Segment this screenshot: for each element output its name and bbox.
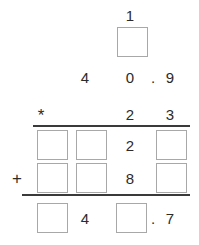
- add-operator-icon: +: [8, 170, 26, 187]
- multiply-operator-icon: *: [32, 107, 50, 124]
- multiplicand-digit-tenths: 9: [161, 70, 179, 85]
- partial1-blank-box-3[interactable]: [156, 130, 187, 160]
- multiplication-worksheet: 1 4 0 . 9 * 2 3 2 + 8 4 . 7: [0, 0, 199, 245]
- total-decimal-point: .: [149, 211, 157, 226]
- multiplier-digit-tens: 2: [121, 107, 139, 122]
- partial1-blank-box-2[interactable]: [76, 130, 107, 160]
- multiplicand-digit-tens: 4: [76, 70, 94, 85]
- partial1-digit: 2: [121, 138, 139, 153]
- upper-rule: [33, 125, 190, 127]
- multiplicand-digit-ones: 0: [121, 70, 139, 85]
- multiplicand-decimal-point: .: [149, 70, 157, 85]
- multiplier-digit-ones: 3: [161, 107, 179, 122]
- lower-rule: [22, 194, 190, 196]
- carry-digit-1: 1: [121, 8, 139, 23]
- partial1-blank-box-1[interactable]: [37, 130, 68, 160]
- partial2-digit: 8: [121, 171, 139, 186]
- carry-blank-box-1[interactable]: [117, 27, 148, 57]
- total-digit-tenths: 7: [161, 211, 179, 226]
- total-digit-tens: 4: [76, 211, 94, 226]
- partial2-blank-box-3[interactable]: [156, 163, 187, 193]
- total-blank-box-2[interactable]: [116, 203, 147, 233]
- total-blank-box-1[interactable]: [37, 203, 68, 233]
- partial2-blank-box-1[interactable]: [37, 163, 68, 193]
- partial2-blank-box-2[interactable]: [76, 163, 107, 193]
